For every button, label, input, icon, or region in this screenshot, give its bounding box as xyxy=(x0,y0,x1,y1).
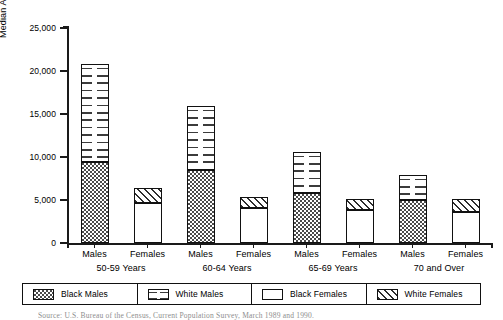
x-tick-mark xyxy=(465,243,467,248)
legend-label: Black Females xyxy=(290,289,347,299)
bar-stack xyxy=(452,199,480,243)
x-tick-mark xyxy=(200,243,202,248)
legend-swatch xyxy=(262,289,283,300)
legend-label: White Females xyxy=(405,289,463,299)
bar-segment xyxy=(346,199,374,210)
y-tick-mark xyxy=(60,156,67,158)
bar-stack xyxy=(399,175,427,243)
y-axis-title: Median Annual Income in Dollars xyxy=(0,0,8,38)
y-tick-mark xyxy=(60,113,67,115)
x-tick-mark xyxy=(359,243,361,248)
y-tick-mark xyxy=(60,199,67,201)
x-group-label: 50-59 Years xyxy=(96,263,145,273)
bar-segment xyxy=(293,193,321,243)
y-tick-label: 0 xyxy=(51,238,56,248)
y-tick-label: 20,000 xyxy=(29,66,56,76)
bar-stack xyxy=(293,152,321,243)
x-tick-mark xyxy=(306,243,308,248)
bar-segment xyxy=(452,212,480,243)
bar-segment xyxy=(399,200,427,243)
x-tick-label: Males xyxy=(188,249,213,259)
bar-segment xyxy=(399,175,427,200)
x-tick-label: Males xyxy=(82,249,107,259)
x-tick-mark xyxy=(253,243,255,248)
x-group-label: 65-69 Years xyxy=(308,263,357,273)
bar-segment xyxy=(187,106,215,170)
x-tick-label: Females xyxy=(448,249,483,259)
bar-stack xyxy=(134,188,162,243)
bar-segment xyxy=(187,170,215,243)
bar-segment xyxy=(134,203,162,243)
bar-segment xyxy=(81,64,109,162)
y-tick-label: 25,000 xyxy=(29,23,56,33)
x-tick-mark xyxy=(67,243,69,248)
x-tick-label: Males xyxy=(294,249,319,259)
chart-legend: Black MalesWhite MalesBlack FemalesWhite… xyxy=(22,283,481,305)
x-tick-mark xyxy=(491,243,493,248)
legend-item: White Males xyxy=(138,284,253,304)
bar-segment xyxy=(346,210,374,243)
bar-segment xyxy=(240,208,268,243)
x-group-label: 60-64 Years xyxy=(202,263,251,273)
bar-segment xyxy=(81,162,109,243)
x-axis-line xyxy=(67,243,493,245)
legend-swatch xyxy=(33,289,54,300)
x-tick-mark xyxy=(94,243,96,248)
bar-stack xyxy=(346,199,374,243)
bar-stack xyxy=(240,197,268,243)
bar-series xyxy=(68,28,492,243)
y-tick-mark xyxy=(60,70,67,72)
y-tick-label: 10,000 xyxy=(29,152,56,162)
y-tick-label: 5,000 xyxy=(34,195,56,205)
bar-segment xyxy=(240,197,268,207)
x-tick-mark xyxy=(147,243,149,248)
legend-swatch xyxy=(377,289,398,300)
y-tick-mark xyxy=(60,242,67,244)
x-tick-mark xyxy=(412,243,414,248)
y-tick-mark xyxy=(60,27,67,29)
legend-swatch xyxy=(148,289,169,300)
x-tick-label: Females xyxy=(130,249,165,259)
plot-area: 05,00010,00015,00020,00025,000 xyxy=(68,28,492,243)
bar-stack xyxy=(81,64,109,243)
legend-label: White Males xyxy=(176,289,224,299)
x-tick-label: Females xyxy=(342,249,377,259)
bar-stack xyxy=(187,106,215,243)
legend-label: Black Males xyxy=(61,289,108,299)
y-tick-label: 15,000 xyxy=(29,109,56,119)
legend-item: White Females xyxy=(367,284,481,304)
bar-segment xyxy=(452,199,480,212)
bar-segment xyxy=(293,152,321,193)
x-group-label: 70 and Over xyxy=(414,263,465,273)
legend-item: Black Males xyxy=(23,284,138,304)
bar-segment xyxy=(134,188,162,203)
x-tick-label: Males xyxy=(400,249,425,259)
chart-figure: Median Annual Income in Dollars 05,00010… xyxy=(0,0,503,320)
legend-item: Black Females xyxy=(252,284,367,304)
figure-caption: Source: U.S. Bureau of the Census, Curre… xyxy=(38,311,468,320)
x-tick-label: Females xyxy=(236,249,271,259)
